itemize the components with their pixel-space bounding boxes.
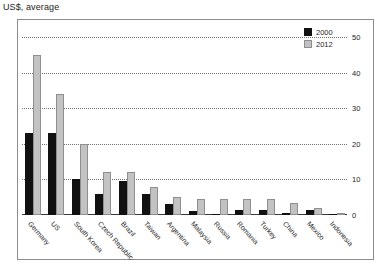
x-label-slot: Indonesia [327, 219, 345, 261]
y-tick-label-30: 30 [352, 104, 360, 113]
bar-group[interactable] [95, 37, 111, 215]
y-tick-label-10: 10 [352, 175, 360, 184]
y-tick-label-40: 40 [352, 68, 360, 77]
bar-2012[interactable] [267, 199, 275, 215]
x-tick-label: Brazil [120, 220, 137, 238]
x-tick-label: Malaysia [189, 220, 213, 245]
bar-2012[interactable] [314, 208, 322, 215]
y-tick-label-50: 50 [352, 33, 360, 42]
bar-2000[interactable] [119, 181, 127, 215]
bar-group[interactable] [142, 37, 158, 215]
bar-2000[interactable] [25, 133, 33, 215]
x-tick-label: Turkey [259, 220, 278, 240]
bar-group[interactable] [235, 37, 251, 215]
x-tick-label: Romania [236, 220, 260, 246]
bar-2000[interactable] [306, 210, 314, 215]
bar-2012[interactable] [197, 199, 205, 215]
bar-2012[interactable] [220, 199, 228, 215]
bar-2000[interactable] [72, 179, 80, 215]
x-label-slot: Argentina [164, 219, 182, 261]
bar-2000[interactable] [142, 194, 150, 215]
x-label-slot: Malaysia [188, 219, 206, 261]
plot-area [22, 37, 347, 215]
bar-2000[interactable] [282, 213, 290, 215]
x-tick-label: Indonesia [329, 220, 355, 247]
x-label-slot: Mexico [304, 219, 322, 261]
x-label-slot: Taiwan [141, 219, 159, 261]
bar-2012[interactable] [243, 199, 251, 215]
bar-2000[interactable] [259, 210, 267, 215]
bar-group[interactable] [259, 37, 275, 215]
x-label-slot: Brazil [118, 219, 136, 261]
y-tick-label-0: 0 [352, 211, 356, 220]
x-tick-label: China [282, 220, 299, 238]
x-label-slot: Turkey [257, 219, 275, 261]
bar-group[interactable] [212, 37, 228, 215]
x-label-slot: South Korea [71, 219, 89, 261]
bar-2000[interactable] [212, 214, 220, 215]
x-tick-label: Taiwan [143, 220, 163, 241]
page-title: US$, average [3, 2, 59, 12]
bar-group[interactable] [306, 37, 322, 215]
bar-groups [22, 37, 347, 215]
bar-2012[interactable] [173, 197, 181, 215]
x-label-slot: China [280, 219, 298, 261]
bar-group[interactable] [119, 37, 135, 215]
bar-2012[interactable] [33, 55, 41, 215]
x-label-slot: Romania [234, 219, 252, 261]
legend-item-2000: 2000 [304, 27, 333, 37]
bar-2012[interactable] [103, 172, 111, 215]
x-tick-label: US [50, 220, 62, 232]
x-tick-label: Mexico [305, 220, 325, 241]
bar-2000[interactable] [235, 210, 243, 215]
chart-page: US$, average 2000 2012 01020304050 Germa… [0, 0, 383, 278]
bar-2000[interactable] [165, 204, 173, 215]
bar-2012[interactable] [150, 187, 158, 215]
chart-panel: 2000 2012 01020304050 GermanyUSSouth Kor… [17, 19, 374, 260]
bar-group[interactable] [282, 37, 298, 215]
x-tick-label: Russia [213, 220, 233, 241]
bar-group[interactable] [189, 37, 205, 215]
x-label-slot: Czech Republic [95, 219, 113, 261]
x-label-slot: Germany [25, 219, 43, 261]
legend-label-2000: 2000 [316, 28, 333, 37]
bar-2000[interactable] [48, 133, 56, 215]
bar-group[interactable] [165, 37, 181, 215]
y-tick-label-20: 20 [352, 139, 360, 148]
bar-2000[interactable] [329, 214, 337, 215]
x-label-slot: Russia [211, 219, 229, 261]
x-axis-labels: GermanyUSSouth KoreaCzech RepublicBrazil… [22, 219, 347, 261]
bar-2012[interactable] [127, 172, 135, 215]
legend-swatch-2000 [304, 28, 312, 36]
bar-group[interactable] [329, 37, 345, 215]
bar-2000[interactable] [95, 194, 103, 215]
bar-2012[interactable] [56, 94, 64, 215]
bar-group[interactable] [72, 37, 88, 215]
bar-group[interactable] [25, 37, 41, 215]
x-label-slot: US [48, 219, 66, 261]
bar-2000[interactable] [189, 211, 197, 215]
bar-group[interactable] [48, 37, 64, 215]
bar-2012[interactable] [80, 144, 88, 215]
bar-2012[interactable] [337, 213, 345, 215]
bar-2012[interactable] [290, 203, 298, 215]
